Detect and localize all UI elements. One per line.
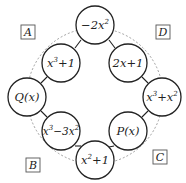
node-text-top-main: −2x (81, 18, 105, 32)
connector-top-upperright (109, 40, 115, 48)
node-lower-right: P(x) (109, 112, 147, 150)
node-text-bottom: x2+1 (81, 153, 109, 167)
connector-upperleft-left (41, 77, 47, 83)
node-text-right-sup2: 2 (172, 90, 178, 98)
connector-lowerright-bottom (109, 146, 114, 147)
label-D: D (156, 25, 170, 39)
label-C: C (153, 150, 167, 164)
node-text-upper-left-b: +1 (58, 56, 75, 70)
node-left: Q(x) (8, 78, 46, 116)
node-text-lower-right: P(x) (115, 124, 139, 138)
node-upper-left: x3+1 (42, 44, 80, 82)
label-text-B: B (28, 159, 37, 172)
node-text-lower-left: x3−3x2 (43, 124, 80, 137)
label-text-A: A (23, 26, 32, 39)
node-text-right-b: +x (157, 90, 174, 104)
label-B: B (26, 158, 40, 172)
node-text-upper-left: x3+1 (47, 56, 75, 70)
node-text-upper-right: 2x+1 (112, 56, 144, 70)
node-text-bottom-b: +1 (92, 153, 109, 167)
connector-right-lowerright (142, 111, 148, 117)
node-lower-left: x3−3x2 (42, 112, 80, 150)
label-text-C: C (156, 151, 165, 164)
connector-upperright-right (142, 77, 148, 83)
node-text-left: Q(x) (15, 90, 40, 104)
node-top: −2x2 (76, 6, 114, 44)
connector-top-upperleft (75, 40, 81, 48)
node-upper-right: 2x+1 (109, 44, 147, 82)
node-bottom: x2+1 (76, 141, 114, 179)
polynomial-ring-diagram: A D B C −2x2 x3+1 2x+1 Q(x) x3+x2 (0, 0, 186, 183)
node-text-top-sup: 2 (103, 18, 109, 26)
node-text-lower-left-b: −3x (53, 125, 74, 137)
connector-left-lowerleft (41, 111, 47, 117)
label-A: A (21, 25, 35, 39)
node-text-lower-left-sup2: 2 (74, 124, 80, 132)
node-right: x3+x2 (143, 78, 181, 116)
label-text-D: D (158, 26, 168, 39)
